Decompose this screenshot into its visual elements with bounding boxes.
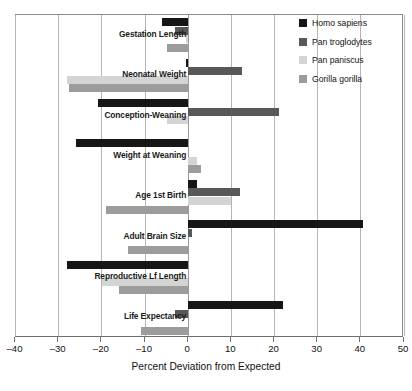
bar xyxy=(188,229,192,237)
legend-swatch-gorilla-gorilla xyxy=(299,75,307,83)
legend-swatch-pan-paniscus xyxy=(299,56,307,64)
x-tick-label: 50 xyxy=(398,343,409,354)
x-tick xyxy=(403,337,404,342)
x-tick xyxy=(230,337,231,342)
gridline-neg20 xyxy=(101,15,102,336)
legend-item-label: Pan paniscus xyxy=(312,55,364,65)
x-tick xyxy=(100,337,101,342)
x-tick xyxy=(14,337,15,342)
bar xyxy=(188,165,201,173)
bar xyxy=(162,18,188,26)
bar xyxy=(188,220,363,228)
x-tick xyxy=(316,337,317,342)
x-tick-label: –20 xyxy=(93,343,109,354)
legend-item: Gorilla gorilla xyxy=(299,74,372,84)
legend-item-label: Homo sapiens xyxy=(312,18,367,28)
bar xyxy=(188,157,197,165)
x-tick-label: –30 xyxy=(50,343,66,354)
bar xyxy=(186,35,188,43)
category-label-life-expectancy: Life Expectancy xyxy=(124,311,186,321)
category-label-age-1st-birth: Age 1st Birth xyxy=(135,190,186,200)
x-tick-label: 0 xyxy=(184,343,189,354)
x-tick xyxy=(187,337,188,342)
legend-swatch-pan-troglodytes xyxy=(299,38,307,46)
bar xyxy=(141,327,188,335)
chart-root: Gestation LengthNeonatal WeightConceptio… xyxy=(0,0,412,391)
category-label-adult-brain-size: Adult Brain Size xyxy=(124,231,187,241)
legend-item: Pan paniscus xyxy=(299,55,372,65)
x-axis-title: Percent Deviation from Expected xyxy=(0,361,412,372)
bar xyxy=(69,84,188,92)
legend-swatch-homo-sapiens xyxy=(299,19,307,27)
category-label-reproductive-lf-length: Reproductive Lf Length xyxy=(94,271,186,281)
gridline-50 xyxy=(404,15,405,336)
chart-legend: Homo sapiensPan troglodytesPan paniscusG… xyxy=(299,18,372,84)
x-tick-label: 10 xyxy=(225,343,236,354)
x-tick xyxy=(273,337,274,342)
x-tick xyxy=(359,337,360,342)
gridline-neg40 xyxy=(15,15,16,336)
x-tick-label: 30 xyxy=(311,343,322,354)
category-label-conception-weaning: Conception-Weaning xyxy=(104,110,186,120)
legend-item: Pan troglodytes xyxy=(299,37,372,47)
x-tick xyxy=(144,337,145,342)
bar xyxy=(188,67,242,75)
bar xyxy=(188,108,279,116)
x-tick-label: 40 xyxy=(354,343,365,354)
x-tick-label: –10 xyxy=(136,343,152,354)
legend-item-label: Pan troglodytes xyxy=(312,37,372,47)
bar xyxy=(188,197,231,205)
category-label-gestation-length: Gestation Length xyxy=(119,29,186,39)
bar xyxy=(128,246,188,254)
bar xyxy=(106,206,188,214)
category-label-weight-at-weaning: Weight at Weaning xyxy=(113,150,186,160)
gridline-neg30 xyxy=(58,15,59,336)
x-tick-label: 20 xyxy=(268,343,279,354)
x-tick-label: –40 xyxy=(6,343,22,354)
category-label-neonatal-weight: Neonatal Weight xyxy=(122,69,186,79)
bar xyxy=(188,180,197,188)
gridline-20 xyxy=(274,15,275,336)
bar xyxy=(167,44,189,52)
bar xyxy=(188,301,283,309)
legend-item: Homo sapiens xyxy=(299,18,372,28)
x-tick xyxy=(57,337,58,342)
bar xyxy=(67,261,188,269)
bar xyxy=(76,139,188,147)
bar xyxy=(188,188,240,196)
bar xyxy=(186,59,188,67)
bar xyxy=(119,286,188,294)
bar xyxy=(98,99,189,107)
legend-item-label: Gorilla gorilla xyxy=(312,74,362,84)
gridline-10 xyxy=(231,15,232,336)
